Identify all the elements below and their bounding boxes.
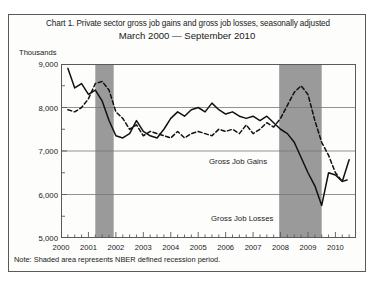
y-axis-unit-label: Thousands: [19, 48, 57, 57]
x-tick-label: 2003: [135, 243, 152, 252]
y-tick-label: 7,000: [38, 147, 58, 156]
x-tick-label: 2000: [53, 243, 70, 252]
chart-figure: Chart 1. Private sector gross job gains …: [8, 14, 366, 272]
y-tick-label: 6,000: [38, 190, 58, 199]
x-tick-label: 2006: [217, 243, 234, 252]
x-tick-label: 2007: [245, 243, 262, 252]
y-axis-tick-labels: 5,0006,0007,0008,0009,000: [9, 64, 58, 238]
plot-area: Gross Job Gains Gross Job Losses: [61, 64, 356, 238]
series-label-gross-job-gains: Gross Job Gains: [209, 157, 267, 166]
chart-title: Chart 1. Private sector gross job gains …: [13, 18, 363, 29]
x-tick-label: 2008: [272, 243, 289, 252]
chart-note: Note: Shaded area represents NBER define…: [14, 255, 220, 264]
x-tick-label: 2004: [162, 243, 179, 252]
y-tick-label: 5,000: [38, 234, 58, 243]
x-tick-label: 2009: [300, 243, 317, 252]
x-tick-label: 2010: [327, 243, 344, 252]
y-tick-label: 8,000: [38, 103, 58, 112]
y-tick-label: 9,000: [38, 60, 58, 69]
chart-plot-svg: [61, 64, 356, 238]
chart-subtitle: March 2000 — September 2010: [9, 30, 365, 42]
x-tick-label: 2001: [80, 243, 97, 252]
x-axis-tick-labels: 2000200120022003200420052006200720082009…: [61, 243, 356, 255]
x-tick-label: 2002: [107, 243, 124, 252]
x-tick-label: 2005: [190, 243, 207, 252]
series-label-gross-job-losses: Gross Job Losses: [211, 214, 273, 223]
